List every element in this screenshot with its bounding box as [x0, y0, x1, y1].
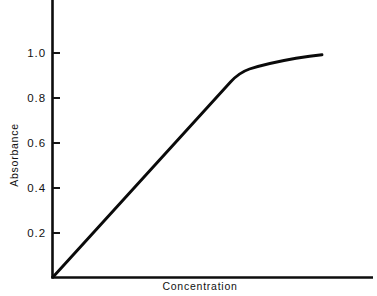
y-tick-label-1-0: 1.0 — [27, 47, 46, 59]
y-tick-label-0-2: 0.2 — [27, 227, 46, 239]
y-axis-ticks — [53, 53, 60, 233]
chart-figure: 1.0 0.8 0.6 0.4 0.2 Concentration Absorb… — [0, 0, 377, 296]
absorbance-curve — [53, 55, 322, 277]
y-axis-tick-labels: 1.0 0.8 0.6 0.4 0.2 — [27, 47, 46, 239]
y-tick-label-0-6: 0.6 — [27, 137, 46, 149]
y-tick-label-0-8: 0.8 — [27, 92, 46, 104]
y-tick-label-0-4: 0.4 — [27, 182, 46, 194]
y-axis-title: Absorbance — [8, 123, 20, 187]
chart-plot-area: 1.0 0.8 0.6 0.4 0.2 Concentration Absorb… — [0, 0, 377, 296]
x-axis-title: Concentration — [162, 280, 237, 292]
